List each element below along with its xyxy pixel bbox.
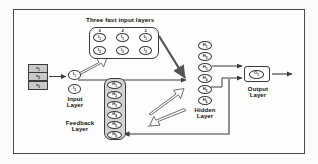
fast-node-c3-i1[interactable]: I1 [93, 33, 106, 42]
fast-node-c1-i2[interactable]: I2 [139, 46, 152, 55]
feedback-node-h3[interactable]: H3 [107, 101, 122, 109]
input-layer-caption: Input Layer [62, 96, 88, 109]
fast-column-number-3: 3 [99, 28, 101, 33]
input-layer-node-i1[interactable]: I1 [68, 70, 81, 80]
external-input-x2[interactable]: x2 [28, 72, 48, 81]
fast-node-c3-i2[interactable]: I2 [93, 46, 106, 55]
feedback-layer-caption: Feedback Layer [60, 120, 100, 133]
output-node-o1[interactable]: O1 [249, 70, 264, 79]
feedback-node-h4[interactable]: H4 [107, 111, 122, 119]
hidden-node-h4[interactable]: H4 [198, 74, 212, 83]
feedback-node-h1[interactable]: H1 [107, 81, 122, 89]
fast-column-number-2: 2 [122, 28, 124, 33]
feedback-node-h2[interactable]: H2 [107, 91, 122, 99]
external-input-x3[interactable]: x3 [28, 81, 48, 90]
hidden-layer-caption: Hidden Layer [186, 107, 224, 120]
input-layer-node-i2[interactable]: I2 [68, 84, 81, 94]
output-layer-caption: Output Layer [240, 86, 276, 99]
diagram-canvas: Three fast input layers 3 2 1 I1 I1 I1 I… [0, 0, 318, 164]
hidden-node-h5[interactable]: H5 [198, 85, 212, 94]
fast-node-c2-i2[interactable]: I2 [116, 46, 129, 55]
hidden-node-h2[interactable]: H2 [198, 52, 212, 61]
feedback-node-h6[interactable]: H6 [107, 131, 122, 139]
fast-column-number-1: 1 [145, 28, 147, 33]
fast-node-c1-i1[interactable]: I1 [139, 33, 152, 42]
hidden-node-h6[interactable]: H6 [198, 96, 212, 105]
hidden-node-h3[interactable]: H3 [198, 63, 212, 72]
fast-node-c2-i1[interactable]: I1 [116, 33, 129, 42]
feedback-node-h5[interactable]: H5 [107, 121, 122, 129]
fast-input-title: Three fast input layers [86, 17, 154, 24]
edge-fast-to-hidden [159, 36, 185, 78]
edge-hidden-to-output-h4 [211, 78, 242, 87]
hidden-node-h1[interactable]: H1 [198, 41, 212, 50]
